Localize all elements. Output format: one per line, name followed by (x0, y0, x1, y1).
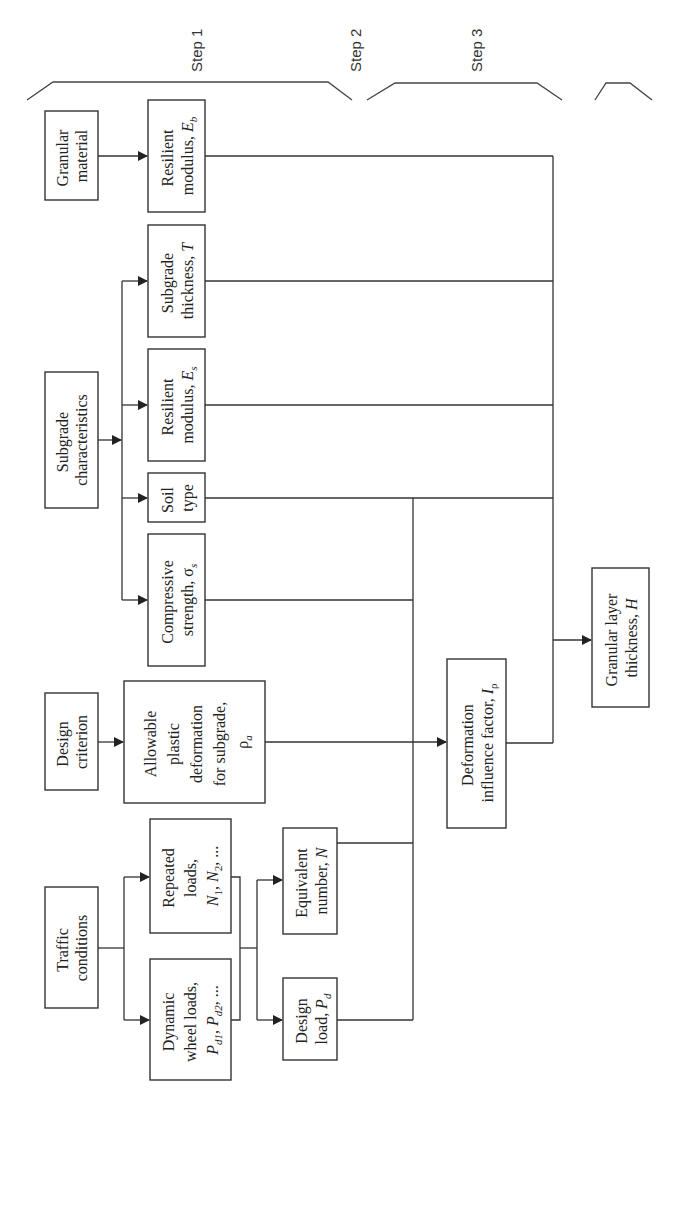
node-resilient-modulus-es: Resilient modulus, Es (148, 349, 205, 461)
step-2-bracket: Step 2 (347, 29, 562, 100)
svg-text:Deformation influence fa: Deformation influence factor, Iρ (459, 683, 499, 803)
node-resilient-modulus-eb: Resilient modulus, Eb (148, 100, 205, 212)
step-3-label: Step 3 (468, 29, 485, 72)
svg-text:Design load, Pd: Design load, Pd (293, 993, 333, 1044)
node-design-criterion: Design criterion (45, 693, 98, 790)
node-repeated-loads: Repeated loads, N1, N2, ... (150, 819, 231, 933)
node-subgrade-characteristics: Subgrade characteristics (45, 372, 98, 508)
step-1-label: Step 1 (188, 29, 205, 72)
node-subgrade-thickness: Subgrade thickness, T (148, 225, 205, 337)
flowchart-diagram: Step 1 Step 2 Step 3 (0, 0, 684, 1210)
node-allowable-plastic-deformation: Allowable plastic deformation for subgra… (124, 681, 265, 803)
node-granular-material: Granular material (45, 111, 98, 200)
node-design-load: Design load, Pd (283, 978, 337, 1060)
node-equivalent-number: Equivalent number, N (283, 828, 337, 934)
node-granular-layer-thickness: Granular layer thickness, H (592, 568, 649, 707)
svg-text:Resilient modulus, Es: Resilient modulus, Es (159, 366, 199, 443)
node-deformation-influence-factor: Deformation influence factor, Iρ (447, 659, 506, 828)
step-3-bracket: Step 3 (468, 29, 652, 100)
node-dynamic-wheel-loads: Dynamic wheel loads, Pd1, Pd2, ... (150, 959, 231, 1080)
svg-text:Resilient modulus, Eb: Resilient modulus, Eb (159, 116, 199, 195)
svg-text:Dynamic wheel loads,: Dynamic wheel loads, Pd1, Pd2, ... (160, 978, 224, 1062)
node-traffic-conditions: Traffic conditions (45, 887, 98, 1008)
node-soil-type: Soil type (148, 473, 205, 522)
step-1-bracket: Step 1 (27, 29, 352, 100)
node-compressive-strength: Compressive strength, σs (148, 534, 205, 666)
svg-text:Compressive strength, σs: Compressive strength, σs (159, 556, 199, 644)
step-2-label: Step 2 (347, 29, 364, 72)
